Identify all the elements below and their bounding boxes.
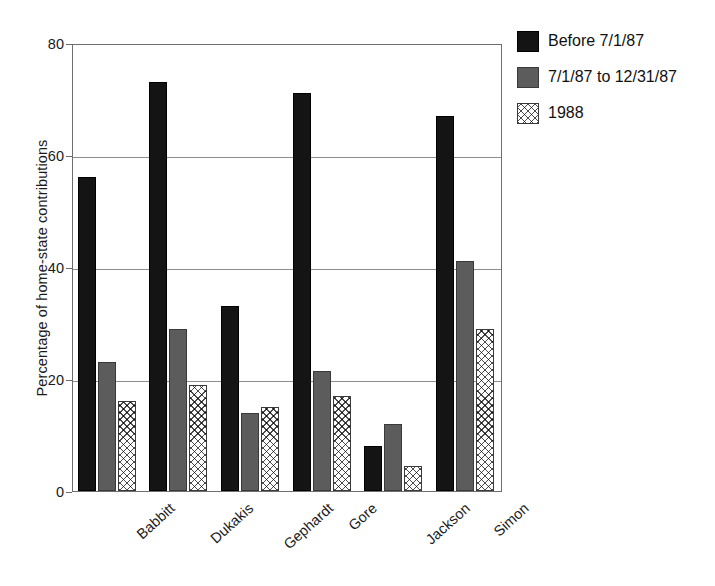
legend-item-1[interactable]: 7/1/87 to 12/31/87 [517,62,709,92]
bar-simon-series-1 [456,261,474,491]
gray-swatch [517,67,539,88]
bar-group-jackson [360,45,432,491]
bar-babbitt-series-0 [78,177,96,491]
bar-group-dukakis [145,45,217,491]
bar-group-gephardt [216,45,288,491]
bar-babbitt-series-1 [98,362,116,491]
black-swatch [517,31,539,52]
bar-gore-series-0 [293,93,311,491]
bar-chart-figure: Percentage of home-state contributions 0… [0,0,715,586]
x-tick-label-text: Jackson [422,500,472,547]
bar-group-babbitt [73,45,145,491]
plot-area [72,44,502,492]
bar-jackson-series-1 [384,424,402,491]
legend-label: 7/1/87 to 12/31/87 [548,68,677,86]
bar-series-container [73,45,501,491]
y-tick-label-0: 0 [18,485,64,500]
bar-group-simon [431,45,503,491]
legend-label: 1988 [548,104,584,122]
crosshatch-swatch [517,103,539,124]
y-tick-mark-0 [66,492,72,493]
y-tick-label-20: 20 [18,373,64,388]
bar-dukakis-series-2 [189,385,207,491]
y-tick-label-80: 80 [18,37,64,52]
bar-gephardt-series-2 [261,407,279,491]
x-tick-label-babbitt: Babbitt [133,500,177,542]
bar-jackson-series-0 [364,446,382,491]
y-tick-label-60: 60 [18,149,64,164]
x-tick-label-text: Gore [345,500,380,533]
y-tick-label-40: 40 [18,261,64,276]
x-tick-label-gore: Gore [345,500,380,533]
x-tick-label-text: Babbitt [133,500,177,542]
legend-label: Before 7/1/87 [548,32,644,50]
bar-gephardt-series-1 [241,413,259,491]
legend-item-0[interactable]: Before 7/1/87 [517,26,709,56]
bar-gore-series-2 [333,396,351,491]
x-tick-label-gephardt: Gephardt [281,500,337,552]
x-tick-label-jackson: Jackson [422,500,472,547]
x-tick-label-dukakis: Dukakis [207,500,256,546]
bar-dukakis-series-1 [169,329,187,491]
legend: Before 7/1/877/1/87 to 12/31/871988 [517,26,709,134]
bar-simon-series-0 [436,116,454,491]
legend-item-2[interactable]: 1988 [517,98,709,128]
bar-group-gore [288,45,360,491]
x-tick-label-text: Simon [491,500,532,539]
x-tick-label-simon: Simon [491,500,532,539]
bar-jackson-series-2 [404,466,422,491]
bar-simon-series-2 [476,329,494,491]
bar-gephardt-series-0 [221,306,239,491]
bar-dukakis-series-0 [149,82,167,491]
x-tick-label-text: Dukakis [207,500,256,546]
bar-gore-series-1 [313,371,331,491]
bar-babbitt-series-2 [118,401,136,491]
x-tick-label-text: Gephardt [281,500,337,552]
